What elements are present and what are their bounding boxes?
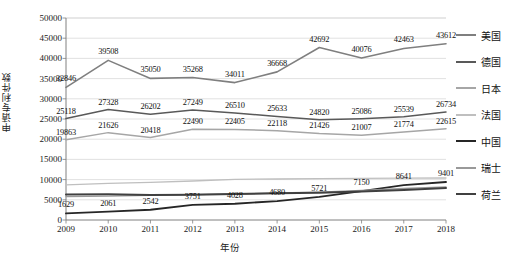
data-point-label: 26734: [436, 99, 456, 108]
data-point-label: 20418: [140, 125, 160, 134]
legend-item[interactable]: 法国: [456, 102, 528, 129]
data-point-label: 1629: [58, 200, 74, 209]
data-point-label: 26510: [225, 100, 245, 109]
data-point-label: 25086: [352, 106, 372, 115]
data-point-label: 35050: [140, 65, 160, 74]
legend-label: 瑞士: [481, 160, 501, 175]
legend: 美国德国日本法国中国瑞士荷兰: [456, 22, 528, 208]
legend-swatch-icon: [456, 167, 476, 169]
series-line: [66, 110, 446, 120]
data-point-label: 39508: [98, 47, 118, 56]
gridlines: [66, 18, 446, 200]
data-point-label: 35268: [183, 64, 203, 73]
legend-label: 荷兰: [481, 187, 501, 202]
series-line: [66, 129, 446, 140]
legend-item[interactable]: 德国: [456, 49, 528, 76]
data-point-label: 22118: [267, 118, 287, 127]
legend-item[interactable]: 荷兰: [456, 181, 528, 208]
legend-label: 法国: [481, 107, 501, 122]
series-lines: [66, 44, 446, 214]
data-point-label: 22405: [225, 117, 245, 126]
legend-item[interactable]: 中国: [456, 128, 528, 155]
data-point-label: 2061: [100, 198, 116, 207]
data-point-label: 21426: [309, 121, 329, 130]
series-line: [66, 44, 446, 87]
data-point-label: 22615: [436, 116, 456, 125]
legend-swatch-icon: [456, 34, 476, 36]
data-point-label: 19863: [56, 127, 76, 136]
data-point-label: 21774: [394, 120, 414, 129]
data-point-label: 5721: [311, 183, 327, 192]
legend-item[interactable]: 美国: [456, 22, 528, 49]
data-point-label: 21626: [98, 120, 118, 129]
data-point-label: 25539: [394, 104, 414, 113]
patent-applications-line-chart: 申请专利件数 年份 050001000015000200002500030000…: [0, 0, 530, 258]
data-point-label: 4028: [227, 190, 243, 199]
legend-item[interactable]: 日本: [456, 75, 528, 102]
data-point-label: 2542: [142, 196, 158, 205]
data-point-label: 36668: [267, 58, 287, 67]
legend-swatch-icon: [456, 87, 476, 89]
data-point-label: 4680: [269, 188, 285, 197]
data-point-label: 25633: [267, 104, 287, 113]
data-point-label: 3751: [185, 191, 201, 200]
data-point-label: 34011: [225, 69, 245, 78]
data-point-label: 24820: [309, 107, 329, 116]
data-point-label: 25118: [56, 106, 76, 115]
legend-label: 中国: [481, 134, 501, 149]
series-line: [66, 182, 446, 213]
legend-swatch-icon: [456, 114, 476, 116]
data-point-label: 42463: [394, 35, 414, 44]
legend-swatch-icon: [456, 61, 476, 63]
data-point-label: 7150: [354, 178, 370, 187]
data-point-label: 21007: [352, 123, 372, 132]
data-point-label: 8641: [396, 172, 412, 181]
legend-label: 德国: [481, 54, 501, 69]
data-point-label: 32846: [56, 74, 76, 83]
series-line: [66, 178, 446, 185]
data-point-label: 42692: [309, 34, 329, 43]
legend-swatch-icon: [456, 193, 476, 195]
data-point-label: 27249: [183, 97, 203, 106]
legend-item[interactable]: 瑞士: [456, 155, 528, 182]
legend-swatch-icon: [456, 140, 476, 142]
data-point-label: 43612: [436, 30, 456, 39]
data-point-label: 26202: [140, 102, 160, 111]
legend-label: 日本: [481, 81, 501, 96]
data-point-label: 40076: [352, 45, 372, 54]
data-point-label: 22490: [183, 117, 203, 126]
data-point-label: 27328: [98, 97, 118, 106]
legend-label: 美国: [481, 28, 501, 43]
data-point-label: 9401: [438, 169, 454, 178]
